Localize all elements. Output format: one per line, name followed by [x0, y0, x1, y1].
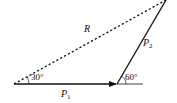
- diagram-svg: [0, 0, 177, 103]
- label-angle-60: 60°: [125, 73, 138, 82]
- label-r: R: [84, 24, 90, 34]
- label-p1: P1: [61, 89, 71, 101]
- vector-triangle-diagram: R P2 P1 30° 60°: [0, 0, 177, 103]
- label-angle-30: 30°: [31, 73, 44, 82]
- angle-arc-30: [27, 77, 29, 84]
- label-p2: P2: [143, 38, 153, 50]
